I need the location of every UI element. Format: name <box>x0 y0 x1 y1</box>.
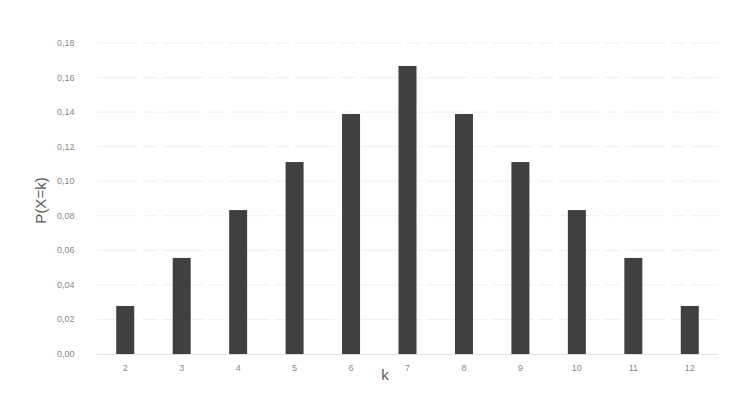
x-tick-label: 3 <box>179 363 184 373</box>
bar-k-6 <box>342 114 360 354</box>
x-tick-label: 6 <box>349 363 354 373</box>
y-tick-label: 0,00 <box>57 349 75 359</box>
y-tick-label: 0,06 <box>57 245 75 255</box>
bar-k-11 <box>624 258 642 354</box>
x-axis-title: k <box>381 366 389 383</box>
x-tick-label: 2 <box>123 363 128 373</box>
x-tick-label: 8 <box>461 363 466 373</box>
x-tick-label: 4 <box>236 363 241 373</box>
probability-bar-chart: 0,000,020,040,060,080,100,120,140,160,18… <box>0 0 751 396</box>
x-axis-tick-labels: 23456789101112 <box>123 363 695 373</box>
x-tick-label: 11 <box>629 363 638 373</box>
y-tick-label: 0,12 <box>57 142 75 152</box>
bar-k-10 <box>568 210 586 354</box>
x-tick-label: 12 <box>685 363 695 373</box>
bar-k-5 <box>286 162 304 354</box>
x-tick-label: 5 <box>292 363 297 373</box>
y-tick-label: 0,14 <box>57 107 75 117</box>
y-tick-label: 0,16 <box>57 73 75 83</box>
y-tick-label: 0,10 <box>57 176 75 186</box>
bar-k-9 <box>511 162 529 354</box>
bar-k-8 <box>455 114 473 354</box>
y-tick-label: 0,02 <box>57 314 75 324</box>
x-tick-label: 9 <box>518 363 523 373</box>
y-tick-label: 0,08 <box>57 211 75 221</box>
bars <box>116 66 699 354</box>
y-axis-title: P(X=k) <box>32 177 49 223</box>
y-tick-label: 0,04 <box>57 280 75 290</box>
y-tick-label: 0,18 <box>57 38 75 48</box>
x-tick-label: 7 <box>405 363 410 373</box>
bar-k-3 <box>173 258 191 354</box>
bar-k-2 <box>116 306 134 354</box>
y-axis-tick-labels: 0,000,020,040,060,080,100,120,140,160,18 <box>57 38 75 359</box>
bar-k-12 <box>681 306 699 354</box>
bar-k-7 <box>399 66 417 354</box>
bar-k-4 <box>229 210 247 354</box>
x-tick-label: 10 <box>572 363 582 373</box>
